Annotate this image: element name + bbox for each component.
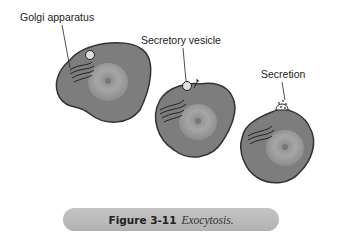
cell-golgi <box>56 25 150 122</box>
secretion-icon <box>276 104 288 110</box>
vesicle-icon <box>86 51 95 60</box>
secretory-vesicle-icon <box>183 82 192 91</box>
cell-secretion <box>241 82 314 183</box>
leader-line-secretion <box>282 82 285 100</box>
leader-line-golgi <box>62 25 70 68</box>
label-golgi-apparatus: Golgi apparatus <box>20 11 94 23</box>
caption-number: Figure 3-11 <box>108 214 176 226</box>
leader-line-vesicle <box>183 48 186 81</box>
label-secretory-vesicle: Secretory vesicle <box>141 34 221 46</box>
figure-caption: Figure 3-11 Exocytosis. <box>63 208 279 231</box>
label-secretion: Secretion <box>261 68 305 80</box>
caption-title: Exocytosis. <box>181 214 233 226</box>
cell-vesicle <box>156 48 235 157</box>
